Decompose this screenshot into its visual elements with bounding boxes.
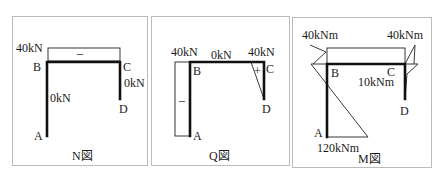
m-node-a: A — [314, 126, 323, 140]
n-node-d: D — [119, 102, 128, 116]
n-node-b: B — [33, 60, 41, 74]
panel-q-border — [152, 17, 290, 166]
m-node-d: D — [400, 104, 409, 118]
panel-n-diagram: – 40kN 0kN 0kN B C D A N図 — [13, 17, 148, 166]
m-diagram-cd-region — [405, 64, 418, 99]
n-value-top-left: 40kN — [16, 41, 43, 55]
m-diagram-b-wedge — [310, 45, 326, 64]
m-value-c: 40kNm — [387, 28, 424, 42]
q-sign-ab: – — [178, 93, 186, 107]
q-node-b: B — [193, 64, 201, 78]
n-value-ab: 0kN — [50, 91, 71, 105]
m-value-a: 120kNm — [317, 141, 360, 155]
frame-diagrams: – 40kN 0kN 0kN B C D A N図 40kN 0kN 40kN … — [0, 0, 445, 181]
panel-n-border — [13, 17, 148, 166]
n-caption: N図 — [72, 149, 93, 163]
panel-m-diagram: 40kNm 40kNm 10kNm 120kNm B C D A M図 — [293, 18, 432, 168]
m-diagram-beam-region — [327, 48, 405, 64]
q-sign-cd: + — [254, 64, 261, 78]
q-caption: Q図 — [209, 149, 230, 163]
m-node-b: B — [331, 66, 339, 80]
q-value-cd: 40kN — [248, 45, 275, 59]
panel-q-diagram: 40kN 0kN 40kN – + B C D A Q図 — [152, 17, 290, 166]
m-node-c: C — [387, 65, 395, 79]
n-node-a: A — [34, 129, 43, 143]
n-node-c: C — [123, 60, 131, 74]
n-diagram-beam-region — [48, 48, 120, 61]
n-sign-top: – — [76, 46, 84, 60]
m-diagram-c-wedge — [405, 45, 415, 64]
m-value-b: 40kNm — [302, 28, 339, 42]
q-node-d: D — [262, 102, 271, 116]
q-node-a: A — [193, 129, 202, 143]
n-value-cd: 0kN — [124, 76, 145, 90]
q-value-ab: 40kN — [171, 45, 198, 59]
q-value-bc: 0kN — [211, 48, 232, 62]
m-caption: M図 — [358, 152, 381, 166]
frame-members — [190, 62, 264, 136]
q-node-c: C — [266, 62, 274, 76]
